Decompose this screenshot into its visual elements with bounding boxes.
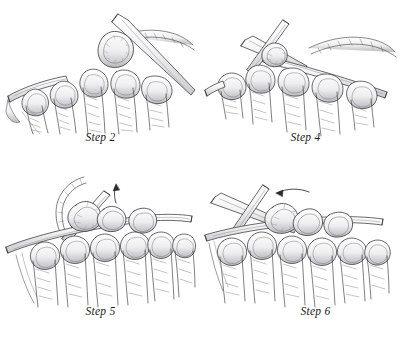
knit-stitch-column (312, 74, 343, 136)
knit-stitch-column (120, 232, 149, 305)
direction-arrow-up (113, 184, 120, 203)
direction-arrow-right (276, 189, 309, 196)
knit-stitch-column (277, 236, 306, 307)
illustration-panel-step-5: Step 5 (0, 171, 201, 341)
completed-stitch-loop (293, 209, 322, 236)
held-stitch-loop (97, 206, 126, 231)
knit-stitch-column (247, 232, 276, 303)
knit-stitch-column (337, 238, 366, 303)
held-stitch-loop (129, 208, 157, 233)
knitting-illustration-step-6 (201, 171, 402, 311)
completed-stitch-loop (324, 212, 353, 237)
knit-stitch-column (111, 70, 140, 134)
knit-stitch-column (142, 76, 173, 130)
knit-stitch-column (347, 81, 378, 130)
knit-stitch-column (50, 81, 78, 134)
knit-stitch-column (90, 234, 119, 307)
held-stitch-loop (68, 201, 101, 231)
panel-caption-step-2: Step 2 (0, 131, 201, 143)
knit-stitch-column (22, 89, 49, 134)
knitting-illustration-step-2 (0, 0, 201, 140)
knit-stitch-column (307, 238, 336, 307)
knit-stitch-column (365, 240, 391, 299)
illustration-panel-step-6: Step 6 (201, 171, 402, 341)
knit-stitch-column (30, 242, 59, 307)
knitting-illustration-step-5 (0, 171, 201, 311)
knitting-steps-figure-sheet: Step 2 (0, 0, 402, 341)
knit-stitch-column (246, 65, 275, 124)
panel-caption-step-4: Step 4 (201, 131, 402, 143)
loose-yarn-strand (309, 37, 396, 57)
illustration-panel-step-2: Step 2 (0, 0, 201, 170)
knit-stitch-column (148, 232, 175, 301)
illustration-panel-step-4: Step 4 (201, 0, 402, 170)
panel-caption-step-5: Step 5 (0, 305, 201, 317)
completed-stitch-loop (265, 203, 298, 233)
knit-stitch-column (218, 73, 246, 119)
knit-stitch-column (80, 69, 108, 134)
knitting-illustration-step-4 (201, 0, 402, 140)
panel-caption-step-6: Step 6 (201, 305, 402, 317)
knit-stitch-column (60, 236, 89, 307)
held-stitch-loop (262, 43, 287, 67)
knit-stitch-column (173, 234, 196, 297)
knit-stitch-column (278, 68, 309, 132)
lifted-stitch-loop (98, 31, 133, 67)
